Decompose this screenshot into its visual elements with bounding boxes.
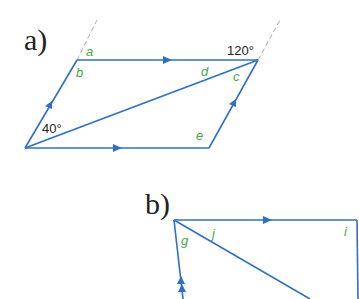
angle-c-label: c (233, 69, 240, 84)
double-arrow-left-b-2-icon (178, 284, 186, 292)
parallel-arrow-top-icon (163, 56, 172, 64)
part-a-label: a) (24, 23, 47, 57)
figure-b: b) g j i (145, 187, 358, 299)
angle-b-label: b (76, 65, 83, 80)
diagonal-b (174, 220, 310, 299)
edge-right-b (357, 220, 358, 299)
angle-i-label: i (344, 224, 348, 239)
angle-g-label: g (181, 233, 189, 248)
angle-e-label: e (196, 128, 203, 143)
angle-j-label: j (210, 226, 216, 241)
dashed-extension-right (258, 20, 280, 60)
part-b-label: b) (145, 187, 170, 221)
angle-120-label: 120° (227, 43, 254, 58)
angle-d-label: d (201, 64, 209, 79)
double-arrow-left-b-1-icon (177, 276, 185, 284)
figure-a: a) a b c d e 120° 40° (24, 20, 280, 152)
parallel-arrow-bottom-icon (113, 144, 122, 152)
angle-a-label: a (86, 44, 93, 59)
angle-40-label: 40° (42, 121, 62, 136)
geometry-diagram: a) a b c d e 120° 40° b) (0, 0, 359, 299)
parallel-arrow-top-b-icon (263, 216, 272, 224)
